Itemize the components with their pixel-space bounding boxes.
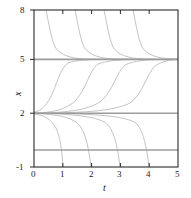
y-axis-label: x: [12, 92, 23, 96]
x-ticks: [63, 10, 149, 167]
curve-decay-to-5-d: [133, 10, 178, 60]
curve-decay-to-5-a: [46, 10, 178, 60]
figure: 8 5 2 -1 0 1 2 3 4 5 x t: [0, 0, 191, 198]
solution-curves: [34, 10, 178, 167]
x-ticklabel-4: 4: [146, 170, 151, 179]
x-axis-label: t: [103, 182, 106, 193]
x-ticklabel-5: 5: [175, 170, 180, 179]
equilibrium-lines: [34, 59, 178, 150]
curve-drop-c: [34, 113, 120, 167]
curve-decay-to-5-c: [104, 10, 178, 60]
curve-drop-a: [34, 114, 63, 167]
y-ticklabel-neg1: -1: [16, 163, 24, 172]
y-ticklabel-8: 8: [20, 6, 25, 15]
x-ticklabel-2: 2: [89, 170, 94, 179]
y-ticklabel-2: 2: [20, 109, 25, 118]
plot-frame: [34, 10, 178, 167]
y-ticks: [30, 10, 34, 167]
curve-sigmoid-a: [34, 59, 178, 112]
curve-decay-to-5-b: [75, 10, 178, 60]
x-ticklabel-3: 3: [117, 170, 122, 179]
y-ticklabel-5: 5: [20, 55, 25, 64]
x-ticklabel-0: 0: [31, 170, 36, 179]
plot-canvas: [0, 0, 191, 198]
x-ticklabel-1: 1: [60, 170, 65, 179]
